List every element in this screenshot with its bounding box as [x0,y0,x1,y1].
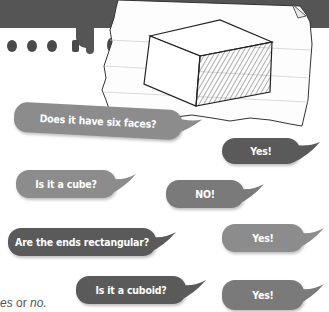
speech-bubble-question: Is it a cube? [16,170,116,198]
caption-text: es or no. [0,296,47,310]
caption-or: or [13,296,30,310]
speech-bubble-question: Is it a cuboid? [76,276,186,304]
bubble-tail-icon [294,282,324,304]
speech-bubble-answer: NO! [166,180,244,208]
bubble-text: Does it have six faces? [39,112,156,130]
speech-bubble-answer: Yes! [222,224,304,252]
caption-no: no. [30,296,47,310]
bubble-text: Is it a cuboid? [95,284,166,296]
bubble-tail-icon [146,230,176,252]
bubble-tail-icon [171,112,202,136]
speech-bubble-question: Are the ends rectangular? [8,228,156,256]
bubble-tail-icon [290,140,320,162]
speech-bubble-answer: Yes! [222,280,304,310]
bubble-tail-icon [176,278,206,300]
bubble-tail-icon [294,226,324,248]
bubble-text: Are the ends rectangular? [15,236,149,248]
bubble-text: Yes! [252,232,273,244]
bubble-tail-icon [234,182,264,204]
caption-yes: es [0,296,13,310]
bubble-text: Yes! [252,289,273,301]
bubble-tail-icon [106,172,136,194]
bubble-text: NO! [195,188,215,200]
bubble-text: Is it a cube? [35,178,97,190]
speech-bubble-answer: Yes! [222,138,300,164]
bubble-text: Yes! [250,145,271,157]
